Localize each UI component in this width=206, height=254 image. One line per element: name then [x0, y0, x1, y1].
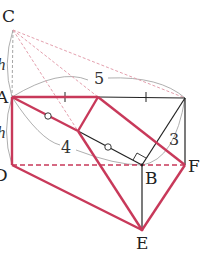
- label-point-d: D: [0, 165, 8, 185]
- dashed-c-m: [13, 30, 98, 97]
- diagram-canvas: C A D B F E h h 5 4 3: [0, 0, 206, 254]
- label-point-c: C: [2, 6, 15, 26]
- arc-4: [12, 97, 60, 145]
- equal-marker-1: [45, 113, 51, 119]
- red-m-h: [78, 97, 98, 131]
- label-point-a: A: [0, 87, 9, 107]
- edge-top-right: [98, 97, 185, 98]
- label-length-5: 5: [94, 69, 104, 88]
- arc-4b: [76, 150, 142, 165]
- label-point-f: F: [188, 156, 200, 176]
- label-length-4: 4: [61, 138, 71, 157]
- geometry-diagram: C A D B F E h h 5 4 3: [0, 0, 206, 254]
- label-h-lower: h: [0, 123, 6, 142]
- label-length-3: 3: [169, 130, 179, 149]
- equal-marker-2: [105, 144, 111, 150]
- label-point-e: E: [136, 233, 148, 253]
- label-point-b: B: [145, 168, 158, 188]
- right-angle-mark: [133, 153, 146, 160]
- label-h-upper: h: [0, 55, 6, 74]
- dashed-ca: [12, 30, 13, 97]
- red-d-e: [12, 165, 142, 230]
- vertex-e: [141, 229, 144, 232]
- vertex-b: [141, 164, 144, 167]
